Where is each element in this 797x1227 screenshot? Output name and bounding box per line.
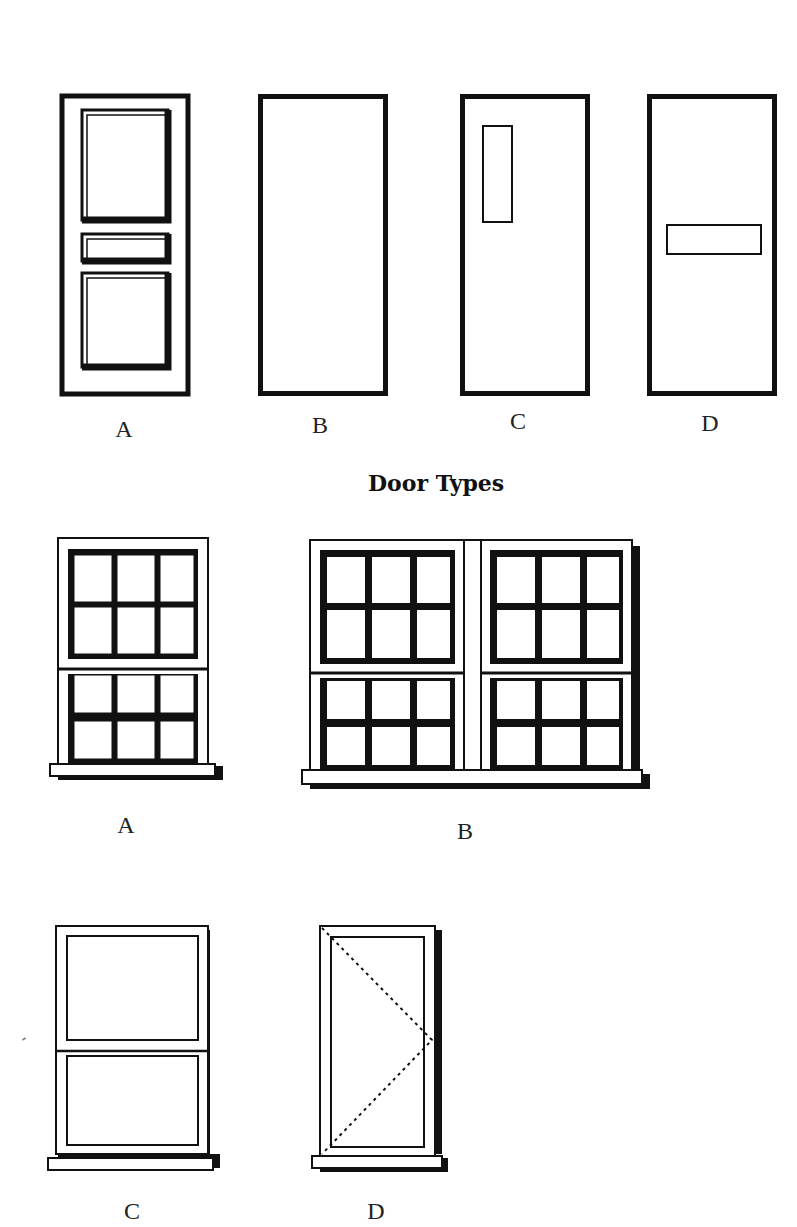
door-b-drawing <box>258 94 388 396</box>
door-d-label: D <box>690 410 730 437</box>
door-b-label: B <box>300 412 340 439</box>
window-a-label: A <box>106 812 146 839</box>
window-b-label: B <box>445 818 485 845</box>
window-d-label: D <box>356 1198 396 1225</box>
door-c-label: C <box>498 408 538 435</box>
door-c-drawing <box>460 94 590 396</box>
window-c-drawing <box>46 922 226 1178</box>
door-a-drawing <box>60 94 190 396</box>
window-d-drawing <box>310 922 450 1178</box>
window-a-drawing <box>48 536 224 788</box>
door-d-drawing <box>647 94 777 396</box>
window-c-label: C <box>112 1198 152 1225</box>
door-types-title: Door Types <box>368 470 504 496</box>
stray-mark <box>22 1037 26 1041</box>
window-b-drawing <box>300 538 652 794</box>
door-a-label: A <box>104 416 144 443</box>
